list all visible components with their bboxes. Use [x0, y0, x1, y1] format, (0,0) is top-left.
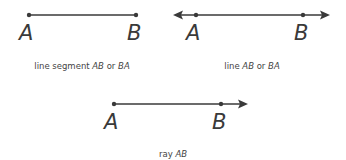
ray-label-a: A [104, 112, 118, 133]
ray-caption: ray AB [159, 149, 187, 159]
line-label-a: A [186, 23, 200, 44]
ray-label-b: B [212, 112, 226, 133]
point-a-dot [27, 13, 31, 17]
segment-label-a: A [19, 23, 33, 44]
line-figure [173, 11, 330, 20]
ray-figure [112, 100, 248, 109]
point-a-dot [112, 102, 116, 106]
segment-caption: line segment AB or BA [34, 61, 129, 71]
segment-label-b: B [127, 23, 141, 44]
point-b-dot [134, 13, 138, 17]
line-label-b: B [294, 23, 308, 44]
point-b-dot [219, 102, 223, 106]
line-caption: line AB or BA [224, 61, 279, 71]
line-segment-figure [27, 13, 138, 17]
point-b-dot [301, 13, 305, 17]
point-a-dot [194, 13, 198, 17]
